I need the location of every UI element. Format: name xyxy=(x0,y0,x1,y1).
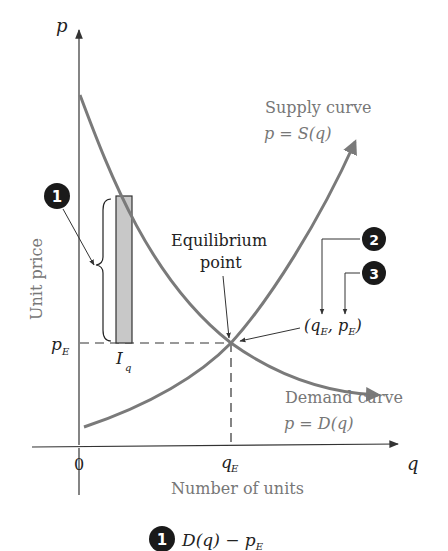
demand-curve-equation: p = D(q) xyxy=(284,414,353,433)
x-axis-label: Number of units xyxy=(171,479,304,498)
marker-3-arrow xyxy=(345,273,360,314)
svg-text:1: 1 xyxy=(157,531,167,549)
supply-curve-equation: p = S(q) xyxy=(264,124,332,143)
demand-curve-title: Demand curve xyxy=(285,388,403,407)
svg-text:3: 3 xyxy=(369,266,379,282)
interval-brace xyxy=(96,199,111,341)
equilibrium-label-line1: Equilibrium xyxy=(171,231,267,250)
supply-demand-diagram: p q 0 Unit price Number of units p E q E… xyxy=(0,0,448,551)
supply-curve-title: Supply curve xyxy=(265,98,371,117)
interval-label: I q xyxy=(115,348,131,373)
caption: 1 D(q) − pE xyxy=(149,526,264,551)
p-equilibrium-label: p E xyxy=(51,334,70,357)
q-equilibrium-label: q E xyxy=(221,452,239,474)
equilibrium-coordinate-label: (qE, pE) xyxy=(304,316,362,337)
svg-text:E: E xyxy=(61,346,70,357)
x-axis-symbol: q xyxy=(407,453,419,474)
coordinate-pointer-arrow xyxy=(240,328,300,341)
equilibrium-pointer-arrow xyxy=(223,276,229,338)
origin-label: 0 xyxy=(74,455,84,474)
svg-text:E: E xyxy=(230,463,239,474)
svg-text:2: 2 xyxy=(369,232,379,248)
interval-rectangle xyxy=(116,196,132,343)
marker-1: 1 xyxy=(44,183,70,209)
svg-text:1: 1 xyxy=(52,188,62,206)
svg-text:p: p xyxy=(51,334,62,354)
y-axis-symbol: p xyxy=(56,15,68,36)
equilibrium-label-line2: point xyxy=(200,253,242,272)
svg-text:I: I xyxy=(115,348,123,368)
svg-text:(qE, pE): (qE, pE) xyxy=(304,316,362,337)
marker-3: 3 xyxy=(362,261,386,285)
svg-text:D(q) − pE: D(q) − pE xyxy=(181,530,264,551)
x-axis xyxy=(32,444,398,447)
marker-2: 2 xyxy=(362,227,386,251)
svg-text:q: q xyxy=(125,362,131,373)
y-axis-label: Unit price xyxy=(27,238,46,320)
marker-2-arrow xyxy=(322,239,360,314)
